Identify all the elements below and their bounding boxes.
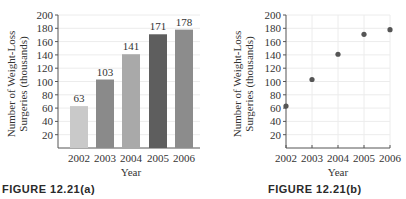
y-tick-label: 140 (37, 49, 54, 61)
bar-2005 (149, 34, 167, 148)
bar-2002 (70, 106, 88, 148)
y-tick-label: 20 (270, 129, 282, 141)
y-tick-label: 80 (42, 89, 54, 101)
figure-b-caption: FIGURE 12.21(b) (268, 183, 362, 195)
x-tick-label: 2003 (301, 152, 324, 164)
bar-value-label: 141 (123, 40, 140, 52)
y-tick-label: 160 (265, 36, 282, 48)
y-axis-label-line1: Number of Weight-Loss (231, 31, 243, 137)
x-tick-label: 2002 (68, 152, 90, 164)
x-tick-label: 2003 (94, 152, 117, 164)
x-tick-label: 2002 (275, 152, 297, 164)
y-tick-label: 20 (42, 129, 54, 141)
figure-a-caption: FIGURE 12.21(a) (2, 183, 95, 195)
y-tick-label: 180 (265, 22, 282, 34)
y-tick-label: 60 (42, 102, 54, 114)
x-axis-label: Year (328, 166, 349, 178)
bar-2004 (122, 54, 140, 148)
bar-2006 (175, 30, 193, 148)
bar-value-label: 63 (74, 92, 86, 104)
x-tick-label: 2004 (120, 152, 143, 164)
x-axis-label: Year (121, 166, 142, 178)
y-tick-label: 100 (37, 76, 54, 88)
data-point-2004 (335, 52, 340, 57)
data-point-2006 (387, 27, 392, 32)
y-tick-label: 200 (37, 9, 54, 21)
figure-a-bar-chart: 2040608010012014016018020063200210320031… (0, 0, 406, 199)
x-tick-label: 2004 (327, 152, 350, 164)
bar-value-label: 178 (176, 16, 193, 28)
y-tick-label: 60 (270, 102, 282, 114)
y-axis-label-line1: Number of Weight-Loss (5, 31, 17, 137)
y-axis-label-line2: Surgeries (thousands) (17, 36, 30, 132)
y-tick-label: 200 (265, 9, 282, 21)
bar-value-label: 103 (97, 66, 114, 78)
data-point-2003 (309, 77, 314, 82)
y-tick-label: 120 (265, 62, 282, 74)
x-tick-label: 2005 (353, 152, 376, 164)
y-tick-label: 40 (270, 115, 282, 127)
y-tick-label: 100 (265, 76, 282, 88)
x-tick-label: 2006 (173, 152, 196, 164)
bar-value-label: 171 (150, 20, 167, 32)
bar-2003 (96, 80, 114, 148)
x-tick-label: 2006 (379, 152, 402, 164)
y-axis-label-line2: Surgeries (thousands) (243, 36, 256, 132)
data-point-2005 (361, 32, 366, 37)
data-point-2002 (283, 104, 288, 109)
y-tick-label: 140 (265, 49, 282, 61)
y-tick-label: 40 (42, 115, 54, 127)
x-tick-label: 2005 (147, 152, 170, 164)
y-tick-label: 80 (270, 89, 282, 101)
y-tick-label: 160 (37, 36, 54, 48)
y-tick-label: 120 (37, 62, 54, 74)
y-tick-label: 180 (37, 22, 54, 34)
